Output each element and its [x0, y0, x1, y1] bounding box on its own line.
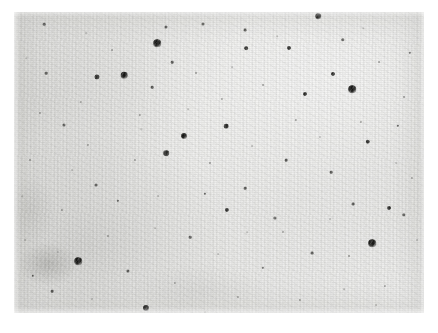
plate-spot: [107, 235, 109, 237]
plate-spot: [231, 66, 233, 68]
plate-spot: [411, 177, 413, 179]
photographic-plate-image: [14, 12, 424, 313]
film-grain-overlay: [14, 12, 424, 313]
plate-spot: [117, 200, 119, 202]
plate-spot: [39, 112, 41, 114]
plate-vignette: [14, 12, 424, 313]
plate-spot: [397, 125, 399, 127]
plate-spot: [139, 114, 141, 116]
plate-spot: [299, 299, 301, 301]
plate-spot: [85, 32, 87, 34]
plate-spot: [204, 193, 206, 195]
plate-spot: [387, 206, 391, 210]
plate-spot: [287, 46, 291, 50]
plate-spot: [91, 298, 93, 300]
plate-spot: [181, 133, 187, 139]
plate-spot: [43, 23, 46, 26]
plate-spot: [140, 128, 142, 130]
plate-spot: [352, 203, 355, 206]
screenshot-root: [0, 0, 438, 333]
plate-spot: [51, 290, 54, 293]
plate-spot: [251, 145, 253, 147]
plate-spot: [295, 119, 297, 121]
plate-spot: [202, 23, 205, 26]
plate-spot: [285, 159, 288, 162]
plate-spot: [57, 251, 59, 253]
plate-spot: [384, 285, 386, 287]
plate-spot: [343, 288, 345, 290]
plate-spot: [45, 72, 48, 75]
plate-spot: [244, 46, 248, 50]
plate-spot: [276, 35, 278, 37]
plate-spot: [403, 96, 405, 98]
plate-spot: [348, 85, 356, 93]
scan-streak-overlay: [14, 12, 424, 313]
plate-spot: [319, 136, 321, 138]
faint-halo-left: [14, 176, 56, 244]
plate-spot: [171, 61, 174, 64]
plate-spot: [151, 86, 154, 89]
plate-spot: [217, 253, 219, 255]
plate-edge-fade: [14, 12, 424, 313]
plate-spot: [111, 49, 113, 51]
plate-spot: [282, 231, 284, 233]
plate-spot: [329, 218, 331, 220]
plate-spot: [244, 187, 247, 190]
plate-spot: [157, 195, 159, 197]
plate-spot: [416, 239, 418, 241]
plate-spot: [63, 124, 66, 127]
plate-spot: [362, 27, 364, 29]
plate-spot: [409, 52, 411, 54]
plate-spot: [195, 72, 197, 74]
plate-spot: [74, 257, 82, 265]
plate-spot: [87, 144, 89, 146]
plate-spot: [61, 209, 63, 211]
plate-spot: [25, 57, 27, 59]
plate-spot: [80, 101, 82, 103]
plate-spot: [189, 236, 192, 239]
plate-spot: [143, 305, 149, 311]
plate-spot: [71, 169, 73, 171]
plate-spot: [348, 255, 350, 257]
plate-spot: [24, 239, 26, 241]
plate-spot: [204, 311, 206, 313]
plate-spot: [134, 159, 136, 161]
low-surface-brightness-smudge: [18, 242, 78, 286]
plate-spot: [262, 267, 264, 269]
plate-spot: [360, 121, 362, 123]
plate-spot: [395, 162, 397, 164]
plate-spot: [273, 216, 276, 219]
plate-spot: [341, 38, 344, 41]
plate-spot: [244, 29, 247, 32]
plate-spot: [21, 195, 23, 197]
plate-spot: [303, 92, 307, 96]
plate-spot: [311, 252, 314, 255]
plate-spot: [402, 213, 405, 216]
plate-spot: [237, 296, 239, 298]
plate-spot: [330, 171, 333, 174]
plate-spot: [221, 98, 223, 100]
plate-spot: [315, 13, 321, 19]
plate-spot: [262, 84, 264, 86]
plate-spot: [174, 282, 176, 284]
plate-spot: [165, 26, 168, 29]
plate-spot: [366, 140, 370, 144]
emulsion-tone-gradient: [14, 12, 424, 313]
plate-spot: [246, 231, 248, 233]
plate-spot: [154, 227, 156, 229]
plate-spot: [163, 150, 169, 156]
plate-spot: [368, 239, 376, 247]
plate-spot: [95, 184, 98, 187]
plate-spot: [126, 269, 129, 272]
plate-spot: [153, 39, 161, 47]
plate-spot: [95, 75, 100, 80]
plate-spot: [29, 159, 31, 161]
plate-spot: [225, 208, 229, 212]
plate-spot: [224, 124, 229, 129]
plate-spot: [32, 275, 34, 277]
plate-spot: [375, 304, 377, 306]
plate-spot: [331, 72, 335, 76]
plate-spot: [378, 61, 380, 63]
plate-spot: [187, 108, 189, 110]
plate-spot: [209, 162, 211, 164]
